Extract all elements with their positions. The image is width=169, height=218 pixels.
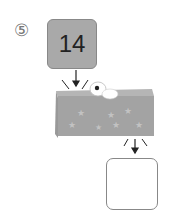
arrow-down-icon (132, 139, 138, 153)
svg-text:★: ★ (124, 106, 132, 116)
answer-box[interactable] (106, 158, 158, 210)
svg-text:★: ★ (107, 110, 115, 120)
svg-text:★: ★ (135, 120, 143, 130)
svg-text:★: ★ (112, 120, 120, 130)
svg-text:★: ★ (95, 123, 102, 132)
svg-text:★: ★ (68, 120, 76, 130)
arrow-down-icon (73, 70, 79, 86)
svg-text:★: ★ (77, 108, 85, 118)
